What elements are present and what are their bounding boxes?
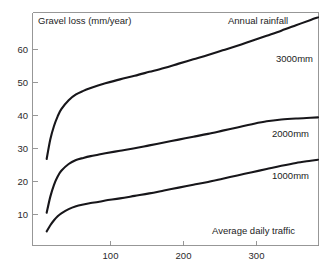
- ytick-label-60: 60: [2, 45, 28, 55]
- ytick-label-30: 30: [2, 144, 28, 154]
- series-label-1000mm: 1000mm: [272, 171, 309, 181]
- x-axis-label: Average daily traffic: [212, 226, 295, 236]
- ytick-label-10: 10: [2, 210, 28, 220]
- series-label-3000mm: 3000mm: [276, 54, 313, 64]
- xtick-label-300: 300: [239, 251, 274, 261]
- xtick-label-100: 100: [93, 251, 128, 261]
- xtick-label-200: 200: [166, 251, 201, 261]
- ytick-label-40: 40: [2, 111, 28, 121]
- series-label-2000mm: 2000mm: [272, 129, 309, 139]
- ytick-label-20: 20: [2, 177, 28, 187]
- chart-figure: Gravel loss (mm/year) Annual rainfall Av…: [0, 0, 331, 270]
- y-axis-label: Gravel loss (mm/year): [38, 16, 131, 26]
- ytick-label-50: 50: [2, 78, 28, 88]
- chart-title: Annual rainfall: [228, 16, 288, 26]
